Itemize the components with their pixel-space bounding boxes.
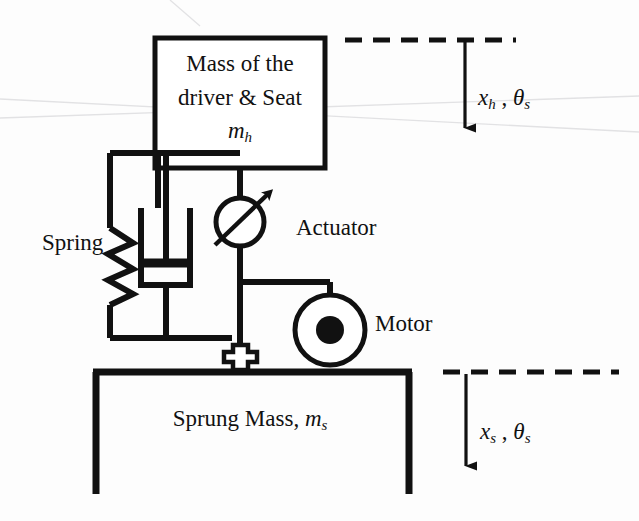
spring-label: Spring [42,230,104,255]
top-reference: xh , θs [345,40,530,128]
top-displacement-base: x [477,85,489,110]
motor-hub [316,316,344,344]
seat-suspension-diagram: Mass of the driver & Seat mh [0,0,639,521]
top-angle-sub: s [524,96,530,112]
sprung-mass-label: Sprung Mass, ms [173,406,328,433]
seat-mass-symbol-sub: h [245,129,253,145]
bottom-angle-sub: s [525,430,531,446]
seat-mass-symbol-base: m [228,118,245,143]
seat-mass-label-line1: Mass of the [186,51,293,76]
bottom-reference: xs , θs [443,372,619,466]
sprung-mass-frame [93,372,412,494]
diagram-canvas: Mass of the driver & Seat mh [0,0,639,521]
spring-coils [108,228,133,305]
actuator-label: Actuator [296,215,377,240]
top-comma: , [496,85,513,110]
sprung-mass-label-text: Sprung Mass, [173,406,305,431]
top-angle-base: θ [513,85,524,110]
bottom-angle-base: θ [513,419,524,444]
motor: Motor [295,295,433,365]
motor-label: Motor [375,311,433,336]
bottom-coordinate-label: xs , θs [479,419,531,446]
pivot-cross-shape [224,345,257,370]
pivot-joint [224,345,257,370]
top-coordinate-label: xh , θs [477,85,530,112]
bottom-comma: , [496,419,513,444]
seat-mass-label-line2: driver & Seat [178,85,303,110]
sprung-mass-symbol-base: m [305,406,322,431]
seat-mass-box: Mass of the driver & Seat mh [155,38,325,168]
top-displacement-sub: h [488,96,496,112]
damper [141,153,190,338]
bottom-displacement-base: x [479,419,491,444]
sprung-mass-symbol-sub: s [322,417,328,433]
spring [108,228,133,338]
